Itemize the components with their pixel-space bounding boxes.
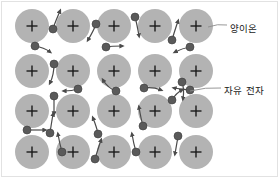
free-electron xyxy=(174,132,182,140)
positive-ion xyxy=(97,135,131,169)
metallic-bonding-diagram: 양이온 자유 전자 xyxy=(0,0,280,179)
free-electron xyxy=(186,43,194,51)
free-electron xyxy=(140,84,148,92)
free-electron xyxy=(178,78,186,86)
free-electron xyxy=(50,92,58,100)
free-electron xyxy=(168,36,176,44)
free-electron xyxy=(131,13,139,21)
positive-ion xyxy=(15,94,49,128)
positive-ion xyxy=(15,9,49,43)
positive-ion xyxy=(97,94,131,128)
positive-ion xyxy=(179,9,213,43)
positive-ion xyxy=(56,94,90,128)
positive-ion xyxy=(179,135,213,169)
positive-ion xyxy=(97,54,131,88)
label-free-electron: 자유 전자 xyxy=(224,83,264,97)
positive-ion xyxy=(15,135,49,169)
free-electron xyxy=(50,60,58,68)
positive-ion xyxy=(56,54,90,88)
free-electron xyxy=(31,42,39,50)
free-electron xyxy=(92,20,100,28)
positive-ion xyxy=(138,135,172,169)
free-electron xyxy=(91,155,99,163)
free-electron xyxy=(139,122,147,130)
free-electron xyxy=(49,25,57,33)
leader-line-electron xyxy=(190,88,221,91)
free-electron xyxy=(74,85,82,93)
free-electron xyxy=(168,96,176,104)
label-cation: 양이온 xyxy=(230,21,258,35)
free-electron xyxy=(46,129,54,137)
positive-ion xyxy=(97,9,131,43)
positive-ion xyxy=(179,94,213,128)
free-electron xyxy=(102,43,110,51)
free-electron xyxy=(23,126,31,134)
positive-ion xyxy=(15,54,49,88)
positive-ion xyxy=(56,9,90,43)
positive-ion xyxy=(138,54,172,88)
free-electron xyxy=(58,148,66,156)
free-electron xyxy=(112,87,120,95)
positive-ion xyxy=(138,9,172,43)
free-electron xyxy=(132,148,140,156)
free-electron xyxy=(94,130,102,138)
